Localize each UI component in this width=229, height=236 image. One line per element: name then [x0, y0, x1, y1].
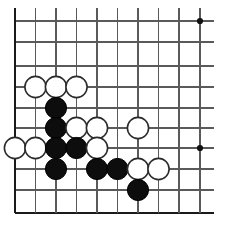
stone-white-c4r5[interactable] — [86, 117, 107, 138]
black-stone-icon — [86, 158, 107, 179]
board-grid — [15, 8, 214, 213]
stones-layer — [4, 76, 169, 200]
stone-black-c2r5[interactable] — [45, 117, 66, 138]
white-stone-icon — [86, 117, 107, 138]
black-stone-icon — [45, 158, 66, 179]
white-stone-icon — [127, 158, 148, 179]
stone-white-c3r3[interactable] — [66, 76, 87, 97]
white-stone-icon — [4, 137, 25, 158]
stone-black-c4r7[interactable] — [86, 158, 107, 179]
stone-black-c5r7[interactable] — [107, 158, 128, 179]
white-stone-icon — [86, 137, 107, 158]
black-stone-icon — [45, 137, 66, 158]
stone-white-c2r3[interactable] — [45, 76, 66, 97]
black-stone-icon — [45, 97, 66, 118]
white-stone-icon — [127, 117, 148, 138]
stone-white-c0r6[interactable] — [4, 137, 25, 158]
white-stone-icon — [45, 76, 66, 97]
white-stone-icon — [66, 117, 87, 138]
stone-white-c1r3[interactable] — [25, 76, 46, 97]
black-stone-icon — [45, 117, 66, 138]
white-stone-icon — [25, 137, 46, 158]
star-point-1 — [197, 145, 203, 151]
stone-black-c3r6[interactable] — [66, 137, 87, 158]
black-stone-icon — [127, 179, 148, 200]
black-stone-icon — [66, 137, 87, 158]
stone-white-c3r5[interactable] — [66, 117, 87, 138]
stone-white-c7r7[interactable] — [148, 158, 169, 179]
stone-white-c6r5[interactable] — [127, 117, 148, 138]
black-stone-icon — [107, 158, 128, 179]
stone-white-c4r6[interactable] — [86, 137, 107, 158]
stone-black-c6r8[interactable] — [127, 179, 148, 200]
star-point-0 — [197, 18, 203, 24]
go-board-diagram — [0, 0, 229, 236]
go-board-canvas — [0, 0, 229, 236]
stone-black-c2r6[interactable] — [45, 137, 66, 158]
stone-black-c2r4[interactable] — [45, 97, 66, 118]
stone-white-c6r7[interactable] — [127, 158, 148, 179]
white-stone-icon — [25, 76, 46, 97]
white-stone-icon — [66, 76, 87, 97]
white-stone-icon — [148, 158, 169, 179]
stone-white-c1r6[interactable] — [25, 137, 46, 158]
stone-black-c2r7[interactable] — [45, 158, 66, 179]
